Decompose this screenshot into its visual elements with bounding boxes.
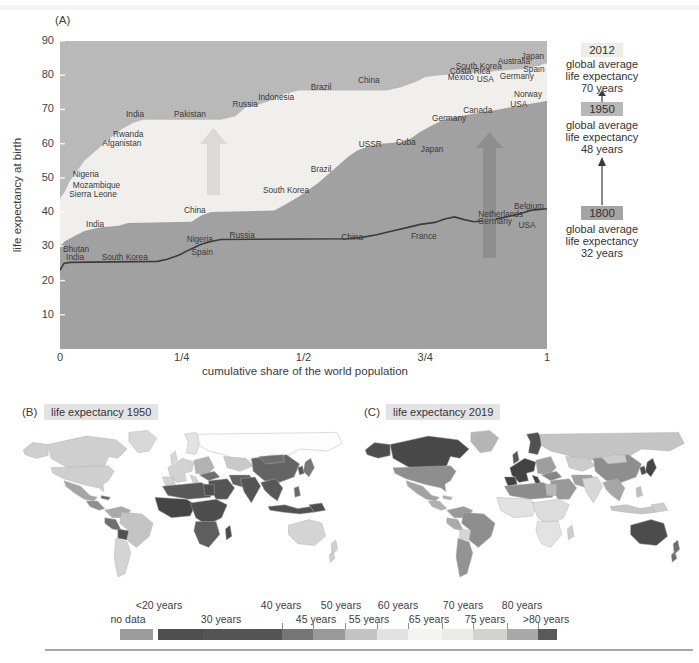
panel-a-plot: NigeriaMozambiqueSierra LeoneAfganistanR… [60,41,547,349]
country-label-1950: Norway [514,89,543,99]
x-tick-label: 1/2 [282,351,326,363]
region-southern-africa [194,521,220,547]
region-egypt [545,484,556,495]
y-tick-label: 90 [22,34,54,46]
panel-c-letter: (C) [364,406,380,418]
region-caribbean [443,495,452,500]
region-korea [640,466,646,475]
year-badge-1800: 1800 [581,206,623,220]
y-tick-label: 20 [22,274,54,286]
region-indonesia [268,505,314,514]
world-map-1950 [12,426,346,590]
legend-color-segment [442,629,473,640]
country-label-2012: Brazil [311,82,332,92]
x-axis-title: cumulative share of the world population [160,365,450,377]
legend-color-segment [377,629,408,640]
country-label-1800: USA [518,220,536,230]
legend-label: <20 years [122,599,196,611]
region-southern-cone [456,538,473,577]
legend-color-segment [345,629,377,640]
country-label-1950: Germany [432,113,467,123]
legend-label: 80 years [485,599,559,611]
panel-c-title: life expectancy 2019 [386,402,500,420]
y-tick-mark [60,75,65,76]
country-label-2012: Sierra Leone [69,189,117,199]
region-australia [630,520,667,546]
figure-page: (A) NigeriaMozambiqueSierra LeoneAfganis… [0,0,699,663]
y-tick-label: 80 [22,68,54,80]
country-label-2012: Spain [523,64,545,74]
y-tick-mark [60,314,65,315]
country-label-2012: Afganistan [102,138,142,148]
world-regions [365,431,684,578]
y-tick-mark [60,280,65,281]
legend-color-segment [158,629,203,640]
legend-color-segment [408,629,442,640]
legend-label: 60 years [361,599,435,611]
annotation-year-1950: 1950 [556,103,648,115]
region-egypt [203,484,214,495]
annotation-year-1800: 1800 [556,207,648,219]
panel-a-plot-area: NigeriaMozambiqueSierra LeoneAfganistanR… [60,41,547,349]
y-tick-label: 40 [22,205,54,217]
legend-color-segment [538,629,557,640]
country-label-1800: South Korea [102,252,149,262]
y-tick-mark [60,109,65,110]
region-philippines [636,486,642,497]
country-label-2012: USA [477,74,495,84]
region-west-africa [155,497,196,517]
legend-label: >80 years [509,613,583,625]
color-scale-legend: <20 years40 years50 years60 years70 year… [0,598,699,648]
panel-a-letter: (A) [55,14,70,26]
region-indonesia [610,505,656,514]
country-label-1950: India [86,219,104,229]
legend-color-segment [203,629,282,640]
region-canada [48,436,127,469]
legend-color-segment [507,629,538,640]
year-badge-1950: 1950 [581,102,623,116]
panel-b-title: life expectancy 1950 [44,402,158,420]
country-label-1800: Russia [229,230,255,240]
y-tick-mark [60,177,65,178]
region-greenland [129,431,157,453]
y-tick-label: 70 [22,102,54,114]
map1950-svg [12,426,346,590]
country-label-1950: Cuba [396,137,416,147]
region-uk [513,451,519,464]
country-label-1950: Japan [421,144,444,154]
panel-c-title-badge: life expectancy 2019 [386,404,500,420]
country-label-1800: Belgium [514,201,544,211]
legend-color-segment [282,629,313,640]
country-label-2012: China [358,75,380,85]
country-label-1950: Brazil [311,164,332,174]
region-alaska [365,443,390,459]
legend-color-segment [473,629,507,640]
region-canada [390,436,469,469]
country-label-1800: China [341,232,363,242]
country-label-1950: Canada [463,105,492,115]
world-regions [23,431,342,578]
region-australia [288,520,325,546]
country-label-2012: Pakistan [174,109,206,119]
map2019-svg [354,426,688,590]
region-greenland [471,431,499,453]
country-label-1800: India [66,252,84,262]
x-tick-label: 1 [525,351,569,363]
legend-label: no data [91,613,165,625]
country-label-1950: China [184,205,206,215]
region-india [240,477,260,503]
region-europe-west [162,458,199,486]
country-label-2012: Japan [522,51,545,61]
region-central-america [86,501,105,510]
panel-b-letter: (B) [22,406,37,418]
y-tick-mark [60,211,65,212]
x-tick-label: 3/4 [403,351,447,363]
region-caribbean [101,495,110,500]
country-label-1950: USA [510,99,528,109]
country-label-1950: USSR [359,139,382,149]
country-label-2012: India [126,109,144,119]
annotation-text-1800: global average life expectancy 32 years [556,224,648,259]
region-madagascar [567,525,573,540]
y-tick-label: 10 [22,308,54,320]
region-new-zealand [671,540,679,562]
